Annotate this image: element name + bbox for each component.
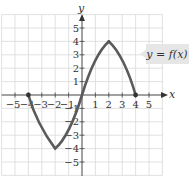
y-axis-arrow-icon <box>79 14 85 21</box>
svg-text:5: 5 <box>73 23 79 34</box>
svg-text:1: 1 <box>73 76 79 87</box>
svg-text:−5: −5 <box>64 157 79 168</box>
x-axis-arrow-icon <box>161 92 168 98</box>
svg-text:4: 4 <box>132 99 138 110</box>
svg-text:3: 3 <box>119 99 125 110</box>
max-point <box>107 40 110 43</box>
svg-text:2: 2 <box>106 99 112 110</box>
svg-text:2: 2 <box>73 63 79 74</box>
x-axis-label: x <box>169 88 176 101</box>
function-graph: −5 −4 −3 −2 −1 1 2 3 4 5 5 4 3 2 1 −1 −2… <box>0 0 189 183</box>
curve-label: y = f(x) <box>145 48 187 61</box>
endpoint-left <box>26 93 31 98</box>
svg-text:−5: −5 <box>6 99 21 110</box>
svg-text:1: 1 <box>92 99 98 110</box>
svg-text:4: 4 <box>73 36 79 47</box>
svg-text:5: 5 <box>146 99 152 110</box>
svg-text:3: 3 <box>73 49 79 60</box>
svg-text:−4: −4 <box>64 143 79 154</box>
endpoint-right <box>133 93 138 98</box>
y-axis-label: y <box>77 2 85 15</box>
